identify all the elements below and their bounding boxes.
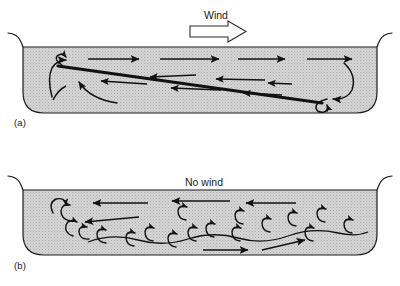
panel-b: No wind xyxy=(8,176,392,255)
panel-a: Wind xyxy=(8,9,392,113)
no-wind-label: No wind xyxy=(185,176,223,188)
basin-a-water xyxy=(23,47,377,113)
panel-a-label: (a) xyxy=(14,117,26,128)
wind-block-arrow xyxy=(190,21,246,42)
basin-circulation-figure: Wind xyxy=(0,0,400,286)
wind-label: Wind xyxy=(204,9,228,21)
panel-b-label: (b) xyxy=(14,260,26,271)
